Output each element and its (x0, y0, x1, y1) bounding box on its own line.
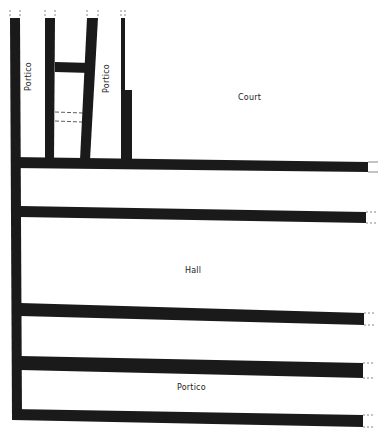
h-crossbar (55, 62, 92, 73)
wall-h1 (12, 157, 368, 172)
upper-wall-2 (45, 18, 55, 160)
wall-h3 (20, 303, 364, 325)
wall-breaks-top (10, 10, 125, 18)
label-portico-left: Portico (24, 62, 33, 91)
upper-wall-3 (80, 18, 98, 160)
label-court: Court (238, 93, 261, 102)
wall-h5 (12, 409, 363, 427)
wall-h2 (20, 206, 366, 223)
upper-wall-4 (121, 18, 132, 160)
label-portico-bottom: Portico (177, 383, 206, 392)
wall-breaks-right (363, 162, 378, 427)
label-portico-middle: Portico (102, 64, 111, 93)
wall-h4 (20, 356, 363, 378)
label-hall: Hall (185, 266, 201, 275)
dashed-threshold (55, 112, 83, 122)
walls (10, 18, 368, 427)
floor-plan (0, 0, 386, 435)
